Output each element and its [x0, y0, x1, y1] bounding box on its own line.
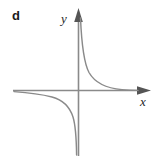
y-axis-arrowhead-icon: [74, 8, 83, 22]
curve-branch-quadrant-three: [14, 92, 77, 155]
figure-panel: d y x: [0, 0, 161, 165]
curve-branch-quadrant-one: [81, 18, 139, 90]
x-axis-label: x: [139, 94, 146, 109]
y-axis-label: y: [59, 11, 67, 26]
hyperbola-graph: y x: [0, 0, 161, 165]
